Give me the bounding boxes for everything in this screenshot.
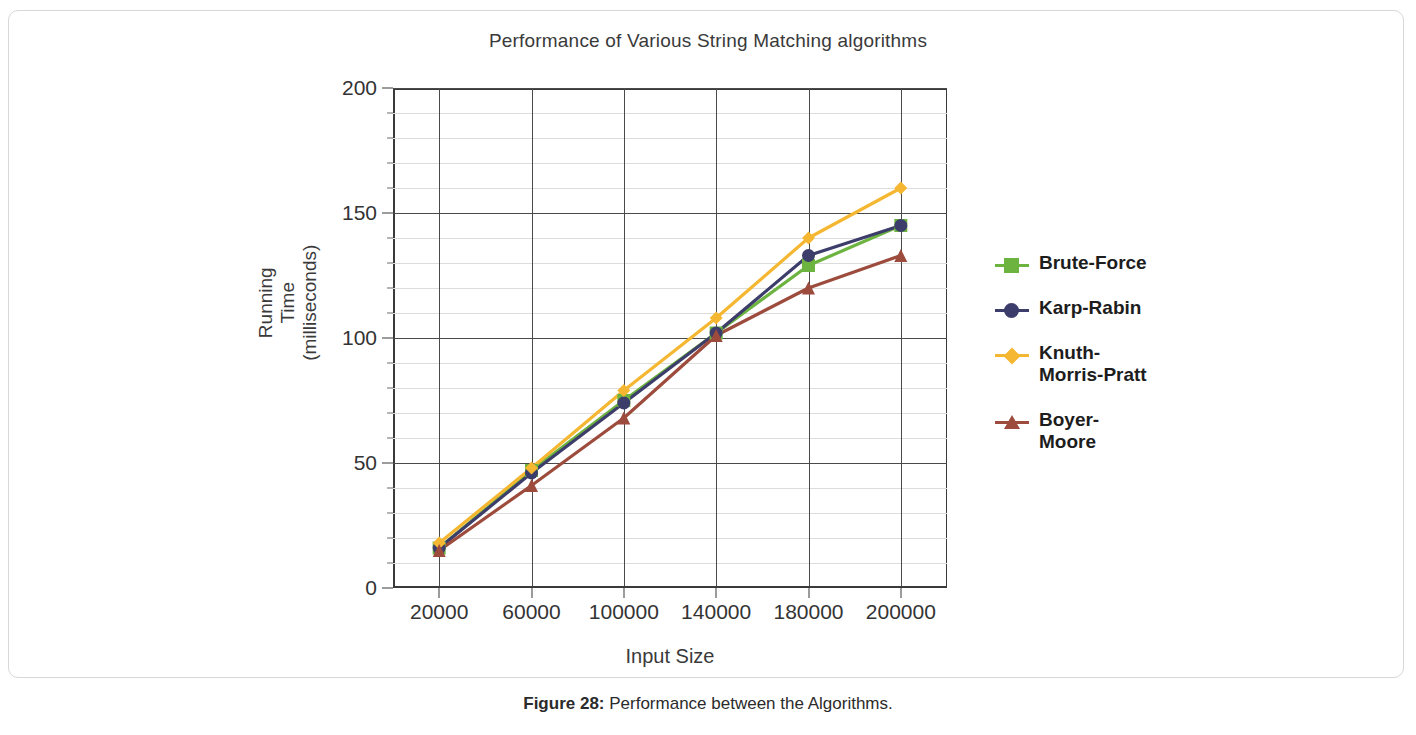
y-tick-mark bbox=[382, 338, 393, 339]
gridline-category bbox=[532, 88, 533, 588]
legend-label: Boyer- Moore bbox=[1039, 409, 1099, 454]
y-tick-minor bbox=[387, 238, 393, 239]
gridline-minor bbox=[393, 563, 947, 564]
chart-title: Performance of Various String Matching a… bbox=[0, 30, 1416, 52]
legend-swatch-diamond-icon bbox=[995, 345, 1029, 365]
x-tick-mark bbox=[531, 588, 532, 598]
y-tick-minor bbox=[387, 288, 393, 289]
y-tick-label: 0 bbox=[365, 576, 377, 600]
x-axis-line bbox=[393, 586, 947, 588]
gridline-major bbox=[393, 463, 947, 464]
gridline-category bbox=[809, 88, 810, 588]
legend-item[interactable]: Knuth- Morris-Pratt bbox=[995, 342, 1205, 387]
y-tick-minor bbox=[387, 263, 393, 264]
gridline-minor bbox=[393, 388, 947, 389]
y-tick-minor bbox=[387, 313, 393, 314]
legend-label: Karp-Rabin bbox=[1039, 297, 1141, 319]
y-axis-title: Running Time (milliseconds) bbox=[255, 228, 321, 378]
x-axis-title: Input Size bbox=[393, 645, 947, 668]
gridline-minor bbox=[393, 363, 947, 364]
x-tick-mark bbox=[716, 588, 717, 598]
y-tick-minor bbox=[387, 388, 393, 389]
y-tick-minor bbox=[387, 438, 393, 439]
legend-label: Knuth- Morris-Pratt bbox=[1039, 342, 1147, 387]
figure-caption: Figure 28: Performance between the Algor… bbox=[0, 694, 1416, 714]
gridline-minor bbox=[393, 263, 947, 264]
gridline-major bbox=[393, 213, 947, 214]
legend-swatch-square-icon bbox=[995, 255, 1029, 275]
gridline-major bbox=[393, 338, 947, 339]
x-tick-mark bbox=[623, 588, 624, 598]
y-tick-minor bbox=[387, 513, 393, 514]
plot-region: 0501001502002000060000100000140000180000… bbox=[393, 88, 947, 588]
y-tick-label: 100 bbox=[342, 326, 377, 350]
y-tick-minor bbox=[387, 113, 393, 114]
gridline-minor bbox=[393, 113, 947, 114]
gridline-minor bbox=[393, 238, 947, 239]
gridline-category bbox=[716, 88, 717, 588]
gridline-minor bbox=[393, 188, 947, 189]
y-tick-label: 200 bbox=[342, 76, 377, 100]
x-tick-mark bbox=[900, 588, 901, 598]
gridline-minor bbox=[393, 288, 947, 289]
gridline-category bbox=[439, 88, 440, 588]
gridline-minor bbox=[393, 538, 947, 539]
y-tick-minor bbox=[387, 363, 393, 364]
gridline-minor bbox=[393, 413, 947, 414]
gridline-category bbox=[901, 88, 902, 588]
x-tick-mark bbox=[808, 588, 809, 598]
y-tick-label: 150 bbox=[342, 201, 377, 225]
gridline-major bbox=[393, 88, 947, 89]
gridline-minor bbox=[393, 163, 947, 164]
gridline-minor bbox=[393, 138, 947, 139]
gridline-minor bbox=[393, 438, 947, 439]
y-tick-mark bbox=[382, 213, 393, 214]
y-tick-minor bbox=[387, 563, 393, 564]
legend-item[interactable]: Brute-Force bbox=[995, 252, 1205, 275]
y-tick-minor bbox=[387, 188, 393, 189]
gridline-minor bbox=[393, 313, 947, 314]
figure-caption-label: Figure 28: bbox=[523, 694, 604, 713]
gridline-category bbox=[624, 88, 625, 588]
legend-swatch-triangle-icon bbox=[995, 412, 1029, 432]
legend-label: Brute-Force bbox=[1039, 252, 1147, 274]
y-tick-mark bbox=[382, 463, 393, 464]
x-tick-label: 180000 bbox=[773, 600, 843, 624]
chart-legend: Brute-ForceKarp-RabinKnuth- Morris-Pratt… bbox=[995, 252, 1205, 476]
gridline-minor bbox=[393, 488, 947, 489]
x-tick-label: 60000 bbox=[502, 600, 560, 624]
y-tick-minor bbox=[387, 413, 393, 414]
y-tick-minor bbox=[387, 538, 393, 539]
y-tick-minor bbox=[387, 138, 393, 139]
y-tick-minor bbox=[387, 488, 393, 489]
x-tick-mark bbox=[439, 588, 440, 598]
x-tick-label: 200000 bbox=[866, 600, 936, 624]
y-tick-mark bbox=[382, 88, 393, 89]
x-tick-label: 20000 bbox=[410, 600, 468, 624]
x-tick-label: 140000 bbox=[681, 600, 751, 624]
y-tick-minor bbox=[387, 163, 393, 164]
y-tick-mark bbox=[382, 588, 393, 589]
legend-item[interactable]: Boyer- Moore bbox=[995, 409, 1205, 454]
legend-swatch-circle-icon bbox=[995, 300, 1029, 320]
y-tick-label: 50 bbox=[354, 451, 377, 475]
x-tick-label: 100000 bbox=[589, 600, 659, 624]
figure-caption-text: Performance between the Algorithms. bbox=[605, 694, 893, 713]
gridline-minor bbox=[393, 513, 947, 514]
legend-item[interactable]: Karp-Rabin bbox=[995, 297, 1205, 320]
